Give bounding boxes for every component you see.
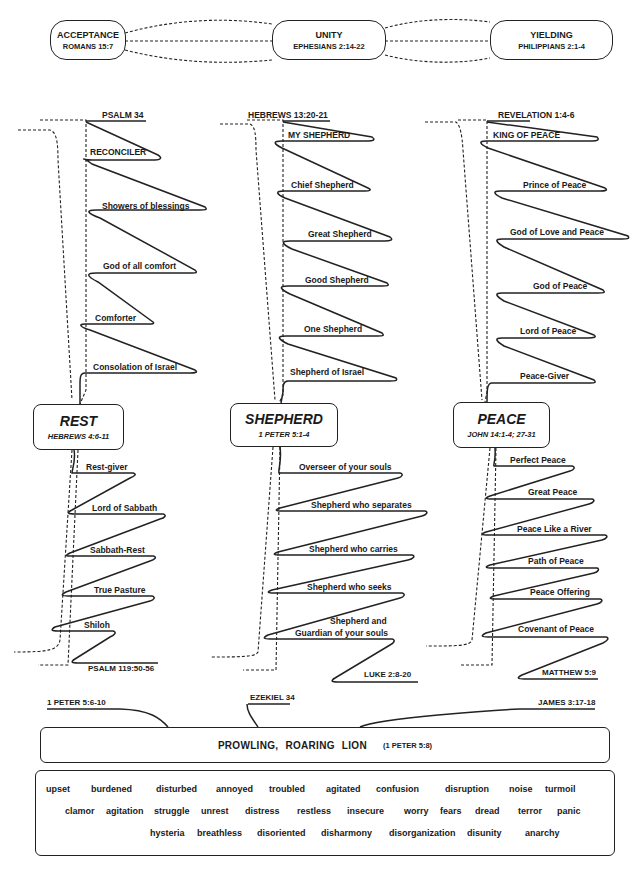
shepherd-title: SHEPHERD — [245, 411, 323, 427]
shepherd-lower-item: Guardian of your souls — [295, 629, 388, 638]
shepherd-lower-item: Shepherd and — [330, 617, 387, 626]
word: unrest — [201, 807, 229, 816]
acceptance-ref: ROMANS 15:7 — [63, 42, 113, 51]
peace-box: PEACE JOHN 14:1-4; 27-31 — [453, 402, 550, 448]
shepherd-lower-item: Shepherd who carries — [309, 545, 398, 554]
rest-upper-item: Showers of blessings — [102, 202, 189, 211]
word: breathless — [197, 829, 242, 838]
word: upset — [46, 785, 70, 794]
shepherd-bottom-ref: LUKE 2:8-20 — [364, 671, 411, 679]
shepherd-upper-item: Shepherd of Israel — [290, 368, 364, 377]
shepherd-lower-item: Overseer of your souls — [299, 463, 392, 472]
peace-upper-item: Peace-Giver — [520, 372, 569, 381]
word: disunity — [467, 829, 502, 838]
peace-upper-item: Prince of Peace — [523, 181, 586, 190]
shepherd-upper-item: One Shepherd — [304, 325, 362, 334]
unity-title: UNITY — [316, 30, 343, 40]
acceptance-title: ACCEPTANCE — [57, 30, 119, 40]
peace-lower-item: Peace Like a River — [517, 525, 592, 534]
unity-box: UNITY EPHESIANS 2:14-22 — [272, 20, 386, 60]
rest-top-ref: PSALM 34 — [102, 111, 144, 120]
peace-lower-item: Path of Peace — [528, 557, 584, 566]
peace-upper-item: God of Love and Peace — [510, 228, 604, 237]
rest-upper-item: Comforter — [95, 314, 136, 323]
shepherd-upper-item: Good Shepherd — [305, 276, 369, 285]
rest-lower-item: True Pasture — [94, 586, 146, 595]
rest-lower-item: Rest-giver — [86, 463, 128, 472]
peace-ref: JOHN 14:1-4; 27-31 — [467, 430, 535, 439]
peace-bottom-ref: MATTHEW 5:9 — [542, 669, 596, 677]
rest-bottom-ref: PSALM 119:50-56 — [88, 665, 154, 673]
word: insecure — [347, 807, 384, 816]
peace-title: PEACE — [477, 411, 525, 427]
word: clamor — [65, 807, 95, 816]
bottom-ref-center: EZEKIEL 34 — [250, 694, 295, 702]
shepherd-upper-item: MY SHEPHERD — [288, 131, 350, 140]
rest-lower-item: Lord of Sabbath — [92, 504, 157, 513]
shepherd-ref: 1 PETER 5:1-4 — [259, 430, 310, 439]
bottom-ref-right: JAMES 3:17-18 — [538, 699, 595, 707]
word: disharmony — [321, 829, 372, 838]
word: agitation — [106, 807, 144, 816]
rest-title: REST — [60, 413, 97, 429]
peace-lower-item: Great Peace — [528, 488, 577, 497]
rest-box: REST HEBREWS 4:6-11 — [33, 404, 124, 450]
word: dread — [475, 807, 500, 816]
word: disoriented — [257, 829, 306, 838]
word: annoyed — [216, 785, 253, 794]
bottom-ref-left: 1 PETER 5:6-10 — [47, 699, 106, 707]
rest-lower-item: Shiloh — [84, 621, 110, 630]
shepherd-lower-item: Shepherd who seeks — [307, 583, 392, 592]
rest-upper-item: God of all comfort — [103, 262, 176, 271]
word: distress — [245, 807, 280, 816]
word: panic — [557, 807, 581, 816]
word: hysteria — [150, 829, 185, 838]
word: disturbed — [156, 785, 197, 794]
peace-upper-item: KING OF PEACE — [493, 131, 560, 140]
word: restless — [297, 807, 331, 816]
word: disruption — [445, 785, 489, 794]
rest-upper-item: RECONCILER — [90, 148, 146, 157]
word: troubled — [269, 785, 305, 794]
peace-lower-item: Peace Offering — [530, 588, 590, 597]
word: anarchy — [525, 829, 560, 838]
word: struggle — [154, 807, 190, 816]
lion-box: PROWLING, ROARING LION (1 PETER 5:8) — [40, 727, 610, 763]
lion-title: PROWLING, ROARING LION — [218, 740, 367, 751]
lion-ref: (1 PETER 5:8) — [383, 741, 432, 750]
yielding-ref: PHILIPPIANS 2:1-4 — [518, 42, 585, 51]
negative-words-box: upset burdened disturbed annoyed trouble… — [35, 770, 615, 856]
peace-lower-item: Covenant of Peace — [518, 625, 594, 634]
shepherd-box: SHEPHERD 1 PETER 5:1-4 — [230, 403, 338, 447]
word: agitated — [326, 785, 361, 794]
word: burdened — [91, 785, 132, 794]
yielding-box: YIELDING PHILIPPIANS 2:1-4 — [490, 20, 613, 60]
word: noise — [509, 785, 533, 794]
peace-upper-item: God of Peace — [533, 282, 587, 291]
unity-ref: EPHESIANS 2:14-22 — [293, 42, 364, 51]
shepherd-lower-item: Shepherd who separates — [311, 501, 412, 510]
shepherd-top-ref: HEBREWS 13:20-21 — [248, 111, 328, 120]
peace-top-ref: REVELATION 1:4-6 — [498, 111, 574, 120]
word: turmoil — [545, 785, 576, 794]
shepherd-upper-item: Chief Shepherd — [291, 181, 354, 190]
word: fears — [440, 807, 462, 816]
peace-lower-item: Perfect Peace — [510, 456, 566, 465]
rest-upper-item: Consolation of Israel — [93, 363, 177, 372]
acceptance-box: ACCEPTANCE ROMANS 15:7 — [50, 20, 126, 60]
word: confusion — [376, 785, 419, 794]
rest-ref: HEBREWS 4:6-11 — [48, 432, 110, 441]
shepherd-upper-item: Great Shepherd — [308, 230, 372, 239]
peace-upper-item: Lord of Peace — [520, 327, 576, 336]
word: worry — [404, 807, 429, 816]
word: terror — [518, 807, 542, 816]
rest-lower-item: Sabbath-Rest — [90, 546, 145, 555]
yielding-title: YIELDING — [530, 30, 573, 40]
word: disorganization — [389, 829, 456, 838]
